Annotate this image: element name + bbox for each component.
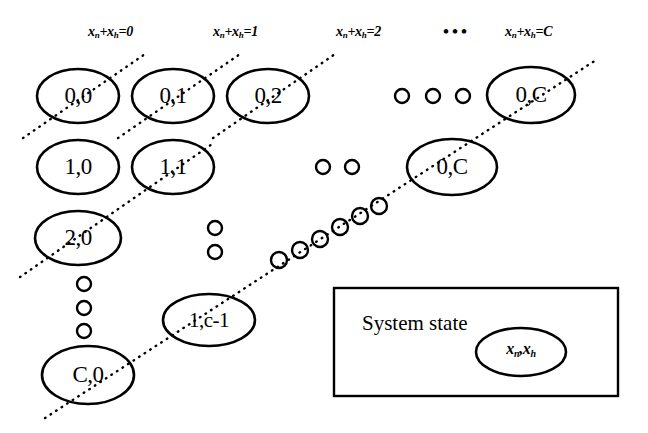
legend-box <box>334 288 618 396</box>
legend-state-label: xn,xh <box>491 340 551 359</box>
state-ellipse-n00[interactable] <box>37 69 119 123</box>
ellipsis-circle-row1-horizontal-1 <box>426 89 440 103</box>
legend-box-group <box>334 288 618 396</box>
ellipsis-circle-diagonal-chain-5 <box>371 198 387 214</box>
state-ellipse-n01[interactable] <box>132 69 214 123</box>
ellipsis-circle-diagonal-chain-0 <box>271 252 287 268</box>
ellipsis-circle-row2-horizontal-0 <box>316 160 330 174</box>
state-ellipse-n0C_b[interactable] <box>407 139 497 195</box>
column-header-h1: xn+xh=1 <box>213 24 258 40</box>
state-ellipse-n11[interactable] <box>132 140 214 194</box>
ellipsis-circle-row2-horizontal-1 <box>345 160 359 174</box>
state-ellipse-n1cm1[interactable] <box>163 294 255 346</box>
ellipsis-circle-row3-vertical-0 <box>208 221 222 235</box>
column-header-h0: xn+xh=0 <box>88 24 133 40</box>
diagonal-dotted-line-d0 <box>23 52 148 138</box>
ellipsis-circle-row3-vertical-1 <box>208 245 222 259</box>
diagram-canvas: xn+xh=0xn+xh=1xn+xh=2xn+xh=C 0,00,10,20,… <box>0 0 648 433</box>
state-ellipse-n0C_t[interactable] <box>487 67 575 123</box>
ellipsis-circle-diagonal-chain-2 <box>312 231 328 247</box>
diagonal-dotted-line-dC <box>45 60 596 418</box>
ellipsis-circle-col0-vertical-2 <box>77 324 91 338</box>
ellipsis-circle-col0-vertical-1 <box>77 301 91 315</box>
column-header-h2: xn+xh=2 <box>336 24 381 40</box>
ellipsis-circle-col0-vertical-0 <box>77 277 91 291</box>
ellipsis-circle-row1-horizontal-0 <box>395 89 409 103</box>
state-ellipse-n20[interactable] <box>35 211 121 265</box>
state-ellipse-nC0[interactable] <box>42 346 134 404</box>
diagram-vector-layer <box>0 0 648 433</box>
state-ellipse-n10[interactable] <box>37 140 119 194</box>
diagonal-dotted-lines-group <box>20 52 596 418</box>
state-ellipse-n02[interactable] <box>227 69 309 123</box>
diagonal-dotted-line-d1 <box>118 52 243 138</box>
header-ellipsis-dots: ••• <box>443 22 470 42</box>
diagonal-dotted-line-d2 <box>213 52 338 138</box>
legend-title: System state <box>362 311 468 336</box>
column-header-hC: xn+xh=C <box>505 24 552 40</box>
ellipsis-circle-row1-horizontal-2 <box>456 89 470 103</box>
